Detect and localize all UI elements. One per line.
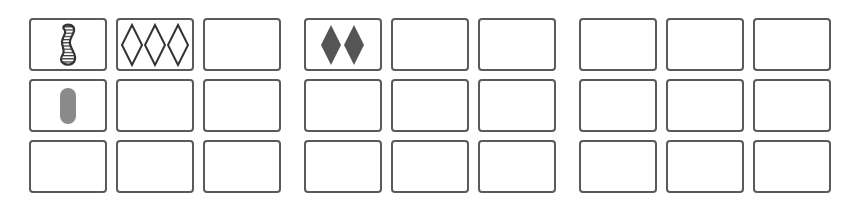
diamond-solid-icon xyxy=(320,23,366,67)
card-one-solid-oval[interactable] xyxy=(29,79,107,132)
card-empty[interactable] xyxy=(478,140,556,193)
squiggle-striped-icon xyxy=(58,23,78,67)
card-three-open-diamonds[interactable] xyxy=(116,18,194,71)
card-empty[interactable] xyxy=(391,18,469,71)
card-empty[interactable] xyxy=(304,140,382,193)
card-empty[interactable] xyxy=(478,18,556,71)
card-empty[interactable] xyxy=(579,18,657,71)
card-empty[interactable] xyxy=(579,140,657,193)
card-empty[interactable] xyxy=(666,140,744,193)
card-empty[interactable] xyxy=(29,140,107,193)
oval-solid-icon xyxy=(59,87,77,125)
card-empty[interactable] xyxy=(203,18,281,71)
card-empty[interactable] xyxy=(203,79,281,132)
card-empty[interactable] xyxy=(304,79,382,132)
card-empty[interactable] xyxy=(391,79,469,132)
card-empty[interactable] xyxy=(478,79,556,132)
card-empty[interactable] xyxy=(116,140,194,193)
card-empty[interactable] xyxy=(753,140,831,193)
card-empty[interactable] xyxy=(753,18,831,71)
card-empty[interactable] xyxy=(579,79,657,132)
game-board xyxy=(0,0,860,202)
card-empty[interactable] xyxy=(203,140,281,193)
card-empty[interactable] xyxy=(753,79,831,132)
card-empty[interactable] xyxy=(666,79,744,132)
card-empty[interactable] xyxy=(116,79,194,132)
diamond-open-icon xyxy=(120,23,190,67)
card-one-striped-squiggle[interactable] xyxy=(29,18,107,71)
card-empty[interactable] xyxy=(666,18,744,71)
card-two-solid-diamonds[interactable] xyxy=(304,18,382,71)
card-empty[interactable] xyxy=(391,140,469,193)
